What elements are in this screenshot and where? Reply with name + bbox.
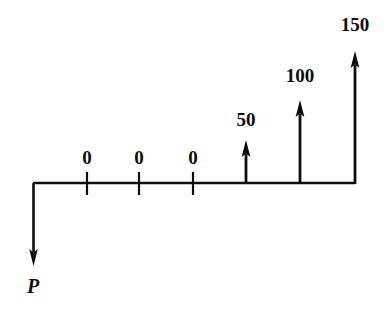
- cashflow-label-150: 150: [325, 15, 385, 34]
- period-label-2: 0: [124, 148, 154, 167]
- principal-label-p: P: [18, 276, 48, 296]
- period-label-1: 0: [72, 148, 102, 167]
- period-label-3: 0: [178, 148, 208, 167]
- cashflow-label-100: 100: [270, 66, 330, 85]
- cashflow-label-50: 50: [216, 110, 276, 129]
- figure-canvas: 0 0 0 50 100 150 P: [0, 0, 388, 320]
